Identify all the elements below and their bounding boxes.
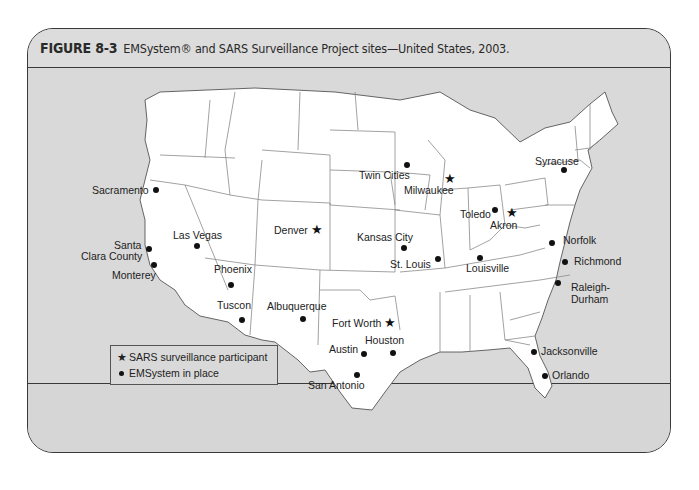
dot-marker-icon (361, 351, 367, 357)
dot-marker-icon (435, 256, 441, 262)
city-label-albuquerque: Albuquerque (267, 301, 327, 312)
city-label-san-antonio: San Antonio (308, 380, 365, 391)
legend-item-emsystem: EMSystem in place (117, 367, 219, 379)
dot-marker-icon (151, 262, 157, 268)
dot-marker-icon (354, 372, 360, 378)
city-label-norfolk: Norfolk (563, 235, 596, 246)
dot-marker-icon (562, 259, 568, 265)
star-legend-icon: ★ (117, 351, 129, 363)
city-label-santa-clara-line2: Clara County (81, 251, 142, 262)
legend-item-sars: ★SARS surveillance participant (117, 351, 267, 363)
star-marker-icon: ★ (311, 223, 323, 236)
city-label-fort-worth: Fort Worth (332, 318, 381, 329)
legend-label-emsystem: EMSystem in place (129, 367, 219, 379)
dot-marker-icon (492, 207, 498, 213)
dot-marker-icon (477, 255, 483, 261)
city-label-phoenix: Phoenix (214, 264, 252, 275)
dot-marker-icon (300, 316, 306, 322)
city-label-las-vegas: Las Vegas (173, 230, 222, 241)
dot-legend-icon (119, 371, 124, 376)
star-marker-icon: ★ (506, 206, 518, 219)
dot-marker-icon (153, 187, 159, 193)
city-label-twin-cities: Twin Cities (359, 170, 410, 181)
legend-label-sars: SARS surveillance participant (129, 351, 267, 363)
dot-marker-icon (404, 162, 410, 168)
dot-marker-icon (542, 373, 548, 379)
city-label-sacramento: Sacramento (92, 185, 149, 196)
dot-marker-icon (561, 167, 567, 173)
star-marker-icon: ★ (384, 316, 396, 329)
city-label-tuscon: Tuscon (217, 300, 251, 311)
city-label-jacksonville: Jacksonville (541, 346, 598, 357)
city-label-milwaukee: Milwaukee (404, 185, 454, 196)
city-label-richmond: Richmond (574, 256, 621, 267)
city-label-toledo: Toledo (460, 209, 491, 220)
dot-marker-icon (146, 246, 152, 252)
dot-marker-icon (239, 317, 245, 323)
dot-marker-icon (228, 282, 234, 288)
dot-marker-icon (549, 240, 555, 246)
city-label-raleigh-durham-line1: Raleigh- (571, 282, 610, 293)
dot-marker-icon (390, 350, 396, 356)
city-label-houston: Houston (365, 335, 404, 346)
dot-marker-icon (194, 243, 200, 249)
map-legend: ★SARS surveillance participant EMSystem … (110, 345, 278, 385)
dot-marker-icon (401, 245, 407, 251)
city-label-st-louis: St. Louis (390, 259, 431, 270)
dot-marker-icon (555, 280, 561, 286)
city-label-austin: Austin (329, 344, 358, 355)
city-label-monterey: Monterey (112, 270, 156, 281)
dot-marker-icon (531, 349, 537, 355)
city-label-kansas-city: Kansas City (357, 232, 413, 243)
city-label-orlando: Orlando (552, 370, 589, 381)
city-label-syracuse: Syracuse (535, 156, 579, 167)
city-label-louisville: Louisville (466, 263, 509, 274)
city-label-denver: Denver (274, 225, 308, 236)
city-label-raleigh-durham-line2: Durham (571, 294, 608, 305)
city-label-akron: Akron (490, 220, 517, 231)
